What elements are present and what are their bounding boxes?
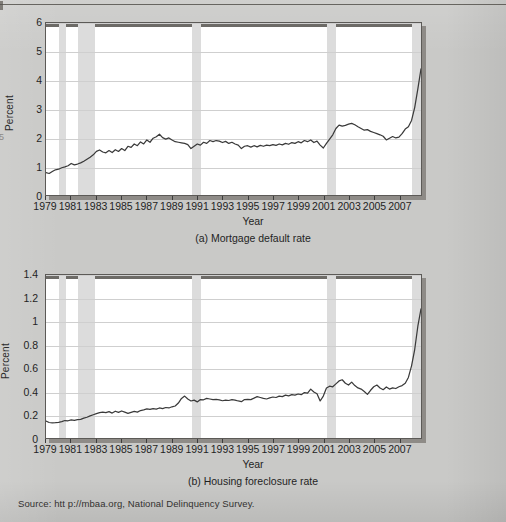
x-tick-label: 2001: [312, 200, 335, 212]
x-tick-label: 1999: [287, 200, 310, 212]
chart-a-y-axis-label: Percent: [4, 95, 15, 131]
chart-b-x-axis-title: Year: [0, 458, 506, 470]
x-tick-label: 1979: [33, 200, 56, 212]
chart-mortgage-default-rate: Percent 0123456 197919811983198519871989…: [0, 10, 506, 250]
x-tick-label: 1983: [84, 443, 107, 455]
x-tick-label: 1995: [236, 200, 259, 212]
y-tick-label: 1.2: [23, 292, 38, 303]
y-tick-label: 0.4: [23, 387, 38, 398]
series-line: [46, 23, 421, 195]
y-tick-label: 3: [36, 104, 42, 115]
y-tick-label: 4: [36, 75, 42, 86]
x-tick-label: 1997: [261, 443, 284, 455]
y-tick-label: 1: [36, 162, 42, 173]
figure-mortgage-default-and-foreclosure: Percent 0123456 197919811983198519871989…: [0, 0, 506, 522]
x-tick-label: 1987: [135, 443, 158, 455]
x-tick-label: 1995: [236, 443, 259, 455]
series-line: [46, 275, 421, 438]
chart-b-y-axis-label: Percent: [0, 343, 11, 379]
chart-a-caption: (a) Mortgage default rate: [0, 232, 506, 244]
x-tick-label: 1991: [185, 443, 208, 455]
x-tick-label: 1999: [287, 443, 310, 455]
x-tick-label: 1997: [261, 200, 284, 212]
chart-a-plot-area: [45, 22, 422, 196]
y-tick-label: 0.6: [23, 363, 38, 374]
x-tick-label: 2005: [363, 200, 386, 212]
y-tick-label: 2: [36, 133, 42, 144]
y-tick-label: 1: [32, 316, 38, 327]
x-tick-label: 2007: [388, 443, 411, 455]
y-tick-label: 0.8: [23, 339, 38, 350]
x-tick-label: 2001: [312, 443, 335, 455]
x-tick-label: 1993: [211, 443, 234, 455]
y-tick-label: 1.4: [23, 269, 38, 280]
chart-housing-foreclosure-rate: Percent 00.20.40.60.811.21.4 19791981198…: [0, 264, 506, 500]
x-tick-label: 1985: [109, 443, 132, 455]
y-tick-label: 0.2: [23, 410, 38, 421]
x-tick-label: 1979: [33, 443, 56, 455]
chart-b-plot-area: [45, 274, 422, 439]
x-tick-label: 1981: [59, 443, 82, 455]
y-tick-label: 6: [36, 17, 42, 28]
chart-a-x-axis-title: Year: [0, 215, 506, 227]
chart-b-caption: (b) Housing foreclosure rate: [0, 475, 506, 487]
x-tick-label: 1989: [160, 443, 183, 455]
y-tick-label: 5: [36, 46, 42, 57]
x-tick-label: 1991: [185, 200, 208, 212]
x-tick-label: 1983: [84, 200, 107, 212]
x-tick-label: 2005: [363, 443, 386, 455]
x-tick-label: 1985: [109, 200, 132, 212]
x-tick-label: 1981: [59, 200, 82, 212]
x-tick-label: 1987: [135, 200, 158, 212]
x-tick-label: 2007: [388, 200, 411, 212]
x-tick-label: 2003: [337, 200, 360, 212]
x-tick-label: 1993: [211, 200, 234, 212]
x-tick-label: 1989: [160, 200, 183, 212]
source-note: Source: htt p://mbaa.org, National Delin…: [18, 498, 255, 509]
x-tick-label: 2003: [337, 443, 360, 455]
